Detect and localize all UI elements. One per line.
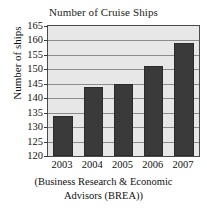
y-tick-mark [44,98,48,99]
y-tick-label: 130 [27,122,43,133]
y-tick-label: 150 [27,64,43,75]
x-tick-label: 2007 [168,159,198,171]
chart-caption: (Business Research & Economic Advisors (… [0,175,207,203]
y-tick-label: 135 [27,107,43,118]
caption-line-2: Advisors (BREA)) [0,189,207,203]
y-tick-mark [44,55,48,56]
plot-area: 120125130135140145150155160165 [47,25,200,157]
bar [144,66,163,156]
y-tick-label: 155 [27,50,43,61]
y-tick-mark [44,142,48,143]
y-axis-title: Number of ships [11,7,23,119]
y-tick-mark [44,127,48,128]
y-tick-label: 160 [27,35,43,46]
y-tick-mark [44,26,48,27]
y-tick-mark [44,69,48,70]
y-tick-label: 125 [27,136,43,147]
bar [84,87,103,156]
y-tick-label: 165 [27,21,43,32]
y-tick-label: 145 [27,79,43,90]
y-tick-mark [44,84,48,85]
caption-line-1: (Business Research & Economic [0,175,207,189]
y-tick-mark [44,113,48,114]
y-tick-mark [44,156,48,157]
chart-figure: Number of Cruise Ships Number of ships 1… [0,0,207,217]
chart-title: Number of Cruise Ships [0,6,207,19]
y-tick-label: 140 [27,93,43,104]
bar [114,84,133,156]
gridline [48,40,199,41]
bar [174,43,193,156]
y-tick-mark [44,40,48,41]
bar [53,116,72,156]
x-tick-label: 2003 [47,159,77,171]
y-tick-label: 120 [27,151,43,162]
x-tick-label: 2006 [138,159,168,171]
x-tick-label: 2004 [77,159,107,171]
x-tick-label: 2005 [107,159,137,171]
